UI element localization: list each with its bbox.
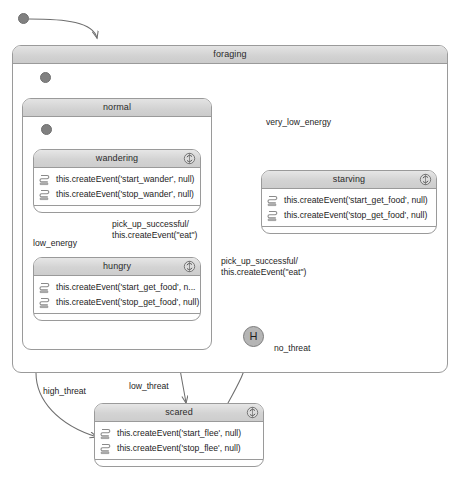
edge-label-pick-up-successful-hungry-line1: pick_up_successful/ [112, 219, 189, 230]
edge-initial-to-foraging [29, 19, 97, 38]
script-action-icon [267, 210, 279, 222]
state-scared-actions: this.createEvent('start_flee', null) thi… [95, 422, 263, 460]
cycle-icon [419, 173, 432, 186]
initial-pseudostate-top[interactable] [18, 13, 29, 24]
script-action-icon [39, 282, 51, 294]
state-wandering[interactable]: wandering this.createEvent('start_wander… [33, 149, 201, 213]
state-scared-label: scared [165, 407, 193, 417]
edge-label-pick-up-successful-hungry-line2: this.createEvent("eat") [112, 230, 197, 241]
script-action-icon [267, 195, 279, 207]
action-row: this.createEvent('stop_flee', null) [95, 441, 263, 456]
state-starving-label: starving [333, 174, 365, 184]
action-text: this.createEvent('start_get_food', null) [284, 195, 428, 205]
state-normal-label: normal [103, 102, 131, 112]
action-text: this.createEvent('start_flee', null) [117, 428, 241, 438]
edge-label-high-threat: high_threat [43, 386, 86, 397]
action-row: this.createEvent('stop_wander', null) [34, 187, 200, 202]
state-starving-actions: this.createEvent('start_get_food', null)… [262, 189, 436, 227]
edge-label-pick-up-successful-starving-line1: pick_up_successful/ [221, 256, 298, 267]
script-action-icon [39, 297, 51, 309]
state-wandering-label: wandering [96, 153, 138, 163]
action-text: this.createEvent('stop_get_food', null) [284, 210, 427, 220]
state-wandering-empty-compartment [34, 206, 200, 215]
state-foraging-title: foraging [13, 46, 447, 64]
script-action-icon [100, 443, 112, 455]
edge-label-low-threat: low_threat [129, 381, 169, 392]
action-text: this.createEvent('stop_get_food', null) [56, 297, 199, 307]
edge-high-threat [36, 373, 97, 437]
state-scared-title: scared [95, 404, 263, 422]
history-label: H [250, 330, 258, 342]
state-hungry-label: hungry [103, 261, 131, 271]
script-action-icon [39, 174, 51, 186]
state-starving-empty-compartment [262, 227, 436, 236]
action-text: this.createEvent('stop_flee', null) [117, 443, 241, 453]
action-row: this.createEvent('stop_get_food', null) [34, 295, 200, 310]
action-row: this.createEvent('start_get_food', n... [34, 280, 200, 295]
action-row: this.createEvent('start_flee', null) [95, 426, 263, 441]
state-foraging-label: foraging [213, 49, 246, 59]
state-scared[interactable]: scared this.createEvent('start_flee', nu… [94, 403, 264, 467]
action-text: this.createEvent('stop_wander', null) [56, 189, 194, 199]
state-starving-title: starving [262, 171, 436, 189]
script-action-icon [100, 428, 112, 440]
edge-label-very-low-energy: very_low_energy [266, 117, 331, 128]
cycle-icon [183, 260, 196, 273]
state-starving[interactable]: starving this.createEvent('start_get_foo… [261, 170, 437, 234]
action-row: this.createEvent('start_get_food', null) [262, 193, 436, 208]
cycle-icon [183, 152, 196, 165]
initial-pseudostate-normal[interactable] [41, 124, 52, 135]
edge-label-pick-up-successful-starving-line2: this.createEvent("eat") [221, 267, 306, 278]
state-scared-empty-compartment [95, 460, 263, 469]
edge-label-no-threat: no_threat [274, 343, 310, 354]
state-wandering-title: wandering [34, 150, 200, 168]
script-action-icon [39, 189, 51, 201]
state-hungry[interactable]: hungry this.createEvent('start_get_food'… [33, 257, 201, 321]
cycle-icon [246, 406, 259, 419]
action-row: this.createEvent('start_wander', null) [34, 172, 200, 187]
initial-pseudostate-foraging[interactable] [40, 72, 51, 83]
state-hungry-actions: this.createEvent('start_get_food', n... … [34, 276, 200, 314]
state-wandering-actions: this.createEvent('start_wander', null) t… [34, 168, 200, 206]
state-hungry-empty-compartment [34, 314, 200, 323]
edge-label-low-energy: low_energy [33, 238, 77, 249]
history-pseudostate[interactable]: H [243, 326, 264, 347]
action-text: this.createEvent('start_wander', null) [56, 174, 194, 184]
state-machine-diagram: foraging normal wandering [0, 0, 460, 485]
action-text: this.createEvent('start_get_food', n... [56, 282, 195, 292]
state-normal-title: normal [23, 99, 211, 117]
action-row: this.createEvent('stop_get_food', null) [262, 208, 436, 223]
state-hungry-title: hungry [34, 258, 200, 276]
